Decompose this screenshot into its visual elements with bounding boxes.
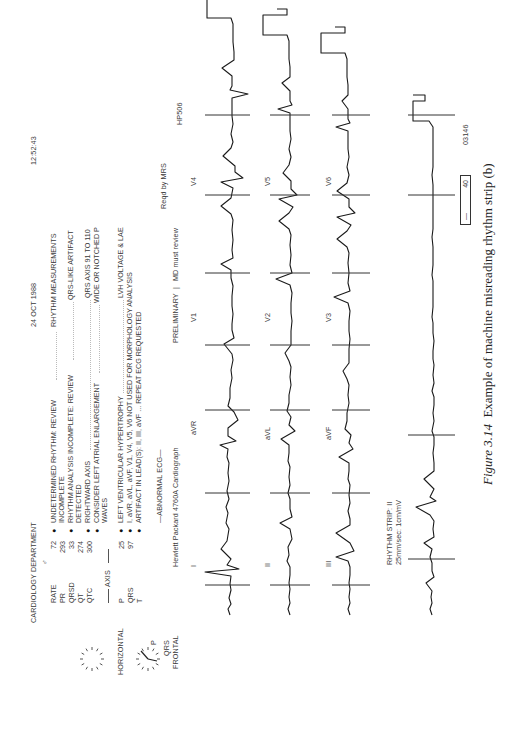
serial-number: 03146 [462,125,469,146]
trace-rhythm-strip [413,95,436,615]
trace-row-2 [263,9,297,615]
boxed-value: 40 [461,180,470,188]
ecg-printout-page: CARDIOLOGY DEPARTMENT ♂ 24 OCT 1988 12:5… [0,0,520,755]
boxed-field: — 40 [460,175,471,225]
figure-caption: Figure 3.14 Example of machine misreadin… [480,163,496,485]
figure-label: Figure 3.14 [480,424,495,485]
ecg-traces [0,0,520,755]
trace-row-1 [205,0,248,615]
figure-caption-text: Example of machine misreading rhythm str… [480,163,495,417]
beat-markers [205,115,455,585]
boxed-dash: — [462,213,469,220]
